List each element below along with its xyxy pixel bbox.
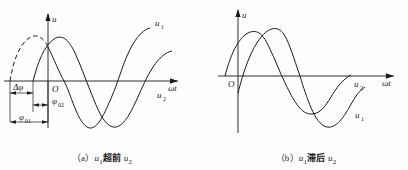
svg-text:u: u — [354, 79, 359, 89]
svg-text:φ: φ — [52, 96, 57, 106]
svg-text:1: 1 — [361, 116, 364, 122]
svg-text:1: 1 — [161, 24, 164, 30]
panel-a: u ωt O u 1 u 2 Δφ φ 02 φ 01 — [0, 0, 204, 170]
curve-label-u1-b: u 1 — [355, 110, 364, 122]
svg-text:u: u — [157, 90, 162, 100]
x-axis-label-a: ωt — [168, 83, 177, 93]
svg-text:ωt: ωt — [168, 83, 177, 93]
caption-b-tag: （b） — [276, 153, 299, 163]
panel-b: u ωt O u 2 u 1 （b）u1滞后 u2 — [204, 0, 408, 170]
label-phi-02: φ 02 — [52, 96, 64, 108]
x-axis-label-b: ωt — [382, 78, 391, 88]
svg-text:02: 02 — [58, 102, 64, 108]
svg-text:2: 2 — [360, 85, 363, 91]
caption-a-tag: （a） — [72, 153, 95, 163]
caption-b: （b）u1滞后 u2 — [204, 151, 408, 166]
label-delta-phi: Δφ — [12, 82, 23, 92]
x-axis-a — [4, 78, 178, 83]
figure-root: u ωt O u 1 u 2 Δφ φ 02 φ 01 — [0, 0, 408, 170]
svg-text:u: u — [355, 110, 360, 120]
y-axis-b — [235, 9, 240, 133]
svg-text:u: u — [155, 18, 160, 28]
svg-text:01: 01 — [25, 118, 31, 124]
dimension-phi-02-a — [33, 103, 48, 107]
panel-a-plot: u ωt O u 1 u 2 Δφ φ 02 φ 01 — [0, 0, 204, 150]
caption-a-var2: u2 — [124, 153, 132, 163]
curve-u1-a — [48, 28, 150, 128]
caption-a-cn: 超前 — [103, 153, 121, 163]
svg-text:φ: φ — [19, 112, 24, 122]
caption-a: （a）u1超前 u2 — [0, 151, 204, 166]
x-axis-b — [218, 73, 394, 78]
panel-b-plot: u ωt O u 2 u 1 — [204, 0, 408, 150]
curve-u1-dashed-a — [10, 36, 48, 81]
caption-b-var1: u1 — [299, 153, 307, 163]
y-axis-label-b: u — [242, 10, 247, 20]
origin-label-b: O — [228, 79, 235, 89]
curve-label-u2-b: u 2 — [354, 79, 363, 91]
caption-a-var1: u1 — [94, 153, 102, 163]
y-axis-label-a: u — [52, 14, 57, 24]
curve-label-u1-a: u 1 — [155, 18, 164, 30]
svg-text:2: 2 — [163, 96, 166, 102]
caption-b-cn: 滞后 — [307, 153, 325, 163]
curve-label-u2-a: u 2 — [157, 90, 166, 102]
origin-label-a: O — [52, 84, 59, 94]
curve-u2-a — [33, 37, 172, 127]
caption-b-var2: u2 — [328, 153, 336, 163]
